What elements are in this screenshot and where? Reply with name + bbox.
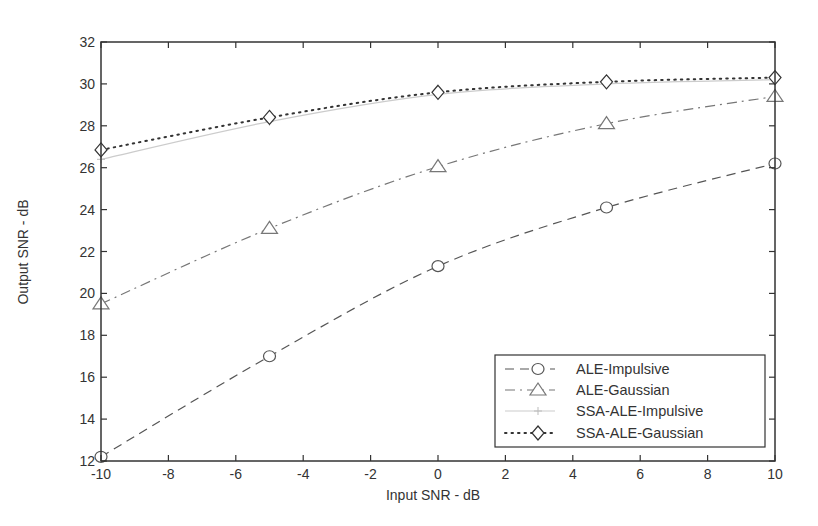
- x-tick-label: 6: [636, 466, 644, 482]
- circle-marker-icon: [532, 364, 544, 375]
- y-tick-label: 30: [79, 76, 95, 92]
- x-tick-label: -6: [230, 466, 243, 482]
- x-tick-label: 4: [569, 466, 577, 482]
- triangle-marker-icon: [430, 160, 446, 172]
- x-axis-label: Input SNR - dB: [386, 487, 480, 503]
- circle-marker-icon: [601, 202, 613, 213]
- x-tick-label: 2: [502, 466, 510, 482]
- line-chart: -10-8-6-4-202468101214161820222426283032…: [0, 0, 818, 526]
- x-tick-label: 10: [767, 466, 783, 482]
- series-ale-gaussian: [93, 89, 783, 308]
- x-tick-label: 0: [434, 466, 442, 482]
- y-tick-label: 14: [79, 411, 95, 427]
- y-tick-label: 28: [79, 118, 95, 134]
- legend-label: ALE-Gaussian: [576, 382, 670, 398]
- legend-label: SSA-ALE-Impulsive: [576, 403, 703, 419]
- legend-label: ALE-Impulsive: [576, 361, 669, 377]
- x-tick-label: 8: [704, 466, 712, 482]
- x-tick-label: -8: [162, 466, 175, 482]
- y-tick-label: 26: [79, 160, 95, 176]
- x-tick-label: -2: [364, 466, 377, 482]
- y-tick-label: 22: [79, 244, 95, 260]
- triangle-marker-icon: [262, 221, 278, 233]
- y-tick-label: 20: [79, 285, 95, 301]
- y-tick-label: 32: [79, 34, 95, 50]
- y-axis-label: Output SNR - dB: [15, 199, 31, 304]
- series-ssa-ale-gaussian: [95, 71, 781, 157]
- diamond-marker-icon: [601, 75, 613, 89]
- y-tick-label: 24: [79, 202, 95, 218]
- circle-marker-icon: [432, 261, 444, 272]
- legend: ALE-ImpulsiveALE-GaussianSSA-ALE-Impulsi…: [495, 355, 765, 447]
- diamond-marker-icon: [432, 85, 444, 99]
- y-tick-label: 12: [79, 453, 95, 469]
- legend-label: SSA-ALE-Gaussian: [576, 425, 703, 441]
- y-tick-label: 16: [79, 369, 95, 385]
- y-tick-label: 18: [79, 327, 95, 343]
- x-tick-label: -4: [297, 466, 310, 482]
- circle-marker-icon: [264, 351, 276, 362]
